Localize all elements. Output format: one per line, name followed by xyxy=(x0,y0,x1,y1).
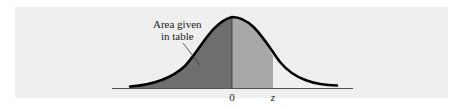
normal-curve-diagram: Area given in table 0 z xyxy=(0,0,464,109)
axis-label-mean: 0 xyxy=(229,91,235,103)
axis-label-z: z xyxy=(270,91,276,103)
annotation-line-2: in table xyxy=(161,30,194,42)
annotation-line-1: Area given xyxy=(153,18,202,30)
